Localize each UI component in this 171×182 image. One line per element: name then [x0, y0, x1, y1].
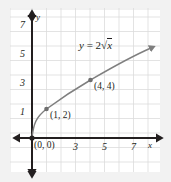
equation-label: y = 2√x [79, 40, 112, 51]
figure-graph-sqrt: y x 7 5 3 1 3 5 7 (0, 0) (1, 2) (4, 4) y… [0, 0, 171, 182]
y-tick-label-5: 5 [20, 49, 25, 59]
x-tick-label-3: 3 [73, 142, 78, 152]
axes-and-curve [0, 0, 171, 182]
point-label-1-2: (1, 2) [50, 111, 71, 121]
point-label-origin: (0, 0) [34, 141, 55, 151]
equation-equals: = [87, 39, 93, 51]
equation-lhs: y [79, 39, 84, 51]
y-axis-label: y [36, 13, 40, 22]
x-axis-label: x [148, 141, 152, 150]
point-marker-1-2 [44, 107, 49, 112]
x-tick-label-5: 5 [102, 142, 107, 152]
x-tick-label-7: 7 [131, 142, 136, 152]
equation-radicand: x [107, 38, 112, 51]
point-label-4-4: (4, 4) [94, 82, 115, 92]
curve-sqrt [32, 48, 151, 138]
point-marker-4-4 [88, 78, 93, 83]
y-tick-label-1: 1 [20, 107, 25, 117]
y-tick-label-3: 3 [20, 78, 25, 88]
y-tick-label-7: 7 [20, 20, 25, 30]
